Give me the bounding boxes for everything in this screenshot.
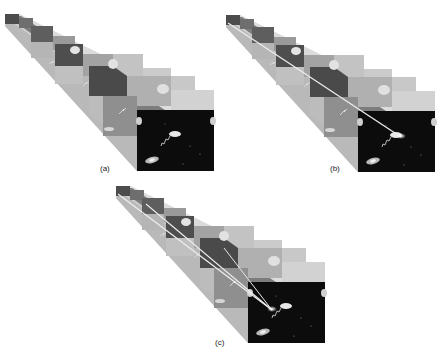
panel-c	[116, 186, 327, 343]
panel-label-b: (b)	[330, 164, 340, 173]
panel-label-a: (a)	[100, 164, 110, 173]
panel-label-c: (c)	[215, 338, 224, 347]
pyramid-figure	[0, 0, 445, 354]
panel-b	[226, 15, 437, 172]
panel-a	[5, 14, 216, 171]
